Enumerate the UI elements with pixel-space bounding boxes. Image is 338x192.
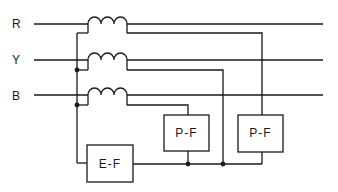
- ct-coil-r-icon: [88, 17, 127, 33]
- bottom-neutral-bus: [133, 151, 262, 164]
- phase-label-b: B: [12, 89, 20, 103]
- ct-coil-y-icon: [88, 53, 127, 70]
- phase-label-r: R: [12, 17, 21, 31]
- ct-coil-b-icon: [88, 88, 127, 105]
- relay-pf-right-label: P-F: [249, 126, 271, 140]
- wire-b-output: [127, 105, 188, 115]
- phase-label-y: Y: [12, 53, 20, 67]
- relay-ef-label: E-F: [99, 157, 121, 171]
- wire-r-output: [127, 33, 262, 115]
- protection-circuit-diagram: R Y B: [0, 0, 338, 192]
- relay-pf-left: P-F: [164, 115, 209, 151]
- junction-dot: [186, 162, 191, 167]
- junction-dot: [75, 68, 80, 73]
- relay-pf-left-label: P-F: [175, 126, 197, 140]
- junction-dot: [221, 162, 226, 167]
- common-return-wire: [77, 33, 88, 163]
- relay-pf-right: P-F: [238, 115, 283, 152]
- junction-dot: [75, 103, 80, 108]
- relay-ef: E-F: [87, 145, 133, 182]
